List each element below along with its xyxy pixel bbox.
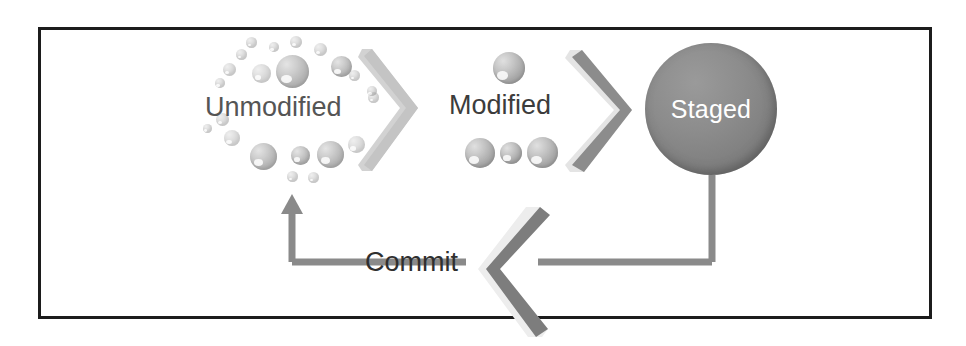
diagram-content-layer: Unmodified Modified Staged (0, 0, 966, 346)
chevron-left-icon (466, 203, 556, 341)
commit-label: Commit (365, 247, 458, 278)
diagram-canvas: Unmodified Modified Staged (0, 0, 966, 346)
